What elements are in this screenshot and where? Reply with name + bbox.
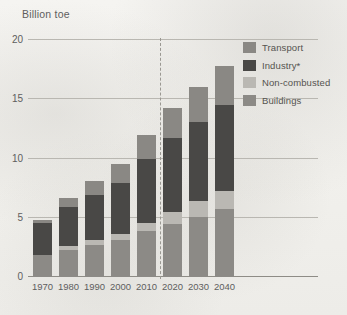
bar-segment-2020-buildings <box>163 224 182 277</box>
bar-segment-2040-non-combusted <box>215 191 234 210</box>
bar-1980 <box>59 198 78 277</box>
legend-item-industry: Industry* <box>243 60 330 71</box>
bar-segment-1970-industry <box>33 223 52 255</box>
legend-swatch-icon <box>243 95 256 106</box>
bar-segment-1980-industry <box>59 207 78 246</box>
legend-item-buildings: Buildings <box>243 95 330 106</box>
legend-item-label: Non-combusted <box>262 77 330 88</box>
bar-1990 <box>85 181 104 277</box>
bar-2020 <box>163 108 182 277</box>
bar-segment-1990-industry <box>85 195 104 240</box>
chart-legend: TransportIndustry*Non-combustedBuildings <box>243 42 330 106</box>
x-tick-label-1990: 1990 <box>84 281 105 292</box>
legend-item-label: Transport <box>262 42 303 53</box>
bar-segment-2020-industry <box>163 138 182 211</box>
bar-segment-2040-transport <box>215 66 234 105</box>
bar-segment-2000-industry <box>111 183 130 234</box>
bar-2010 <box>137 135 156 277</box>
bar-2000 <box>111 164 130 277</box>
legend-swatch-icon <box>243 77 256 88</box>
bar-1970 <box>33 220 52 277</box>
y-axis-title: Billion toe <box>22 8 70 20</box>
legend-swatch-icon <box>243 60 256 71</box>
y-tick-label-15: 15 <box>12 93 23 104</box>
bar-segment-2020-transport <box>163 108 182 139</box>
bar-segment-2030-industry <box>189 122 208 201</box>
x-tick-label-2000: 2000 <box>110 281 131 292</box>
bar-segment-2030-transport <box>189 87 208 121</box>
bar-segment-2030-non-combusted <box>189 201 208 216</box>
chart-root: Billion toe 05101520 1970198019902000201… <box>0 0 347 315</box>
bar-segment-2010-industry <box>137 159 156 223</box>
y-tick-label-20: 20 <box>12 34 23 45</box>
bar-segment-2000-transport <box>111 164 130 183</box>
y-tick-label-5: 5 <box>17 211 23 222</box>
bar-segment-1990-transport <box>85 181 104 195</box>
bar-segment-1980-transport <box>59 198 78 207</box>
legend-item-label: Industry* <box>262 60 300 71</box>
y-tick-label-10: 10 <box>12 152 23 163</box>
x-tick-label-1980: 1980 <box>58 281 79 292</box>
bar-2040 <box>215 66 234 277</box>
y-tick-label-0: 0 <box>17 271 23 282</box>
bar-2030 <box>189 87 208 277</box>
bar-segment-2000-buildings <box>111 240 130 277</box>
x-tick-label-2010: 2010 <box>136 281 157 292</box>
legend-item-non-combusted: Non-combusted <box>243 77 330 88</box>
bar-segment-2010-non-combusted <box>137 223 156 231</box>
x-tick-label-2040: 2040 <box>214 281 235 292</box>
x-tick-label-2030: 2030 <box>188 281 209 292</box>
bar-segment-1970-buildings <box>33 255 52 278</box>
x-tick-label-1970: 1970 <box>32 281 53 292</box>
bar-segment-2040-industry <box>215 105 234 190</box>
legend-item-transport: Transport <box>243 42 330 53</box>
bar-segment-2030-buildings <box>189 217 208 277</box>
bar-segment-1990-buildings <box>85 245 104 277</box>
bar-segment-2040-buildings <box>215 209 234 277</box>
bar-segment-2020-non-combusted <box>163 212 182 224</box>
bar-segment-2010-buildings <box>137 231 156 277</box>
bar-segment-2010-transport <box>137 135 156 159</box>
x-tick-label-2020: 2020 <box>162 281 183 292</box>
bar-segment-1980-buildings <box>59 250 78 277</box>
legend-item-label: Buildings <box>262 95 301 106</box>
legend-swatch-icon <box>243 42 256 53</box>
